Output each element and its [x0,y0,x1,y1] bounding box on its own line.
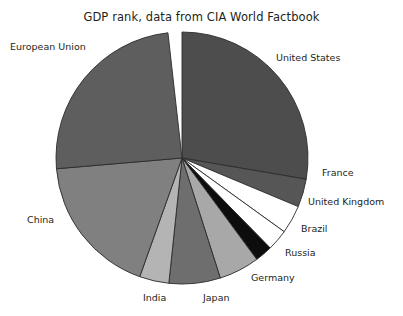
slice-label-european-union: European Union [10,41,86,52]
slice-label-russia: Russia [285,247,316,258]
pie-chart-figure: GDP rank, data from CIA World Factbook E… [0,0,403,316]
slice-label-india: India [143,292,166,303]
slice-label-united-states: United States [276,52,340,63]
slice-label-china: China [27,214,54,225]
slice-label-france: France [322,167,354,178]
slice-label-united-kingdom: United Kingdom [308,196,384,207]
slice-label-japan: Japan [203,292,230,303]
slice-label-brazil: Brazil [301,223,328,234]
pie-slice-european-union [56,33,182,169]
pie-slices-group [56,32,308,284]
slice-label-germany: Germany [251,272,295,283]
